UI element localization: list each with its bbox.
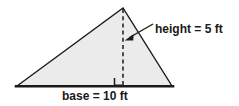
base-label: base = 10 ft (62, 89, 128, 103)
height-label: height = 5 ft (155, 22, 223, 36)
triangle-shape (17, 8, 172, 86)
